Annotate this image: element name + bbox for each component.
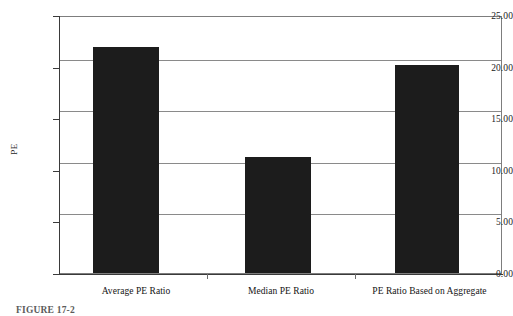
x-axis-tick [207,274,208,279]
x-axis-label-median-pe-ratio: Median PE Ratio [208,286,354,297]
plot-area [59,16,502,274]
x-axis-tick [355,274,356,279]
bar-median-pe-ratio [245,157,311,273]
y-axis-tick [53,119,60,120]
figure-caption: FIGURE 17-2 [16,305,75,316]
y-axis-tick-label: 10.00 [465,166,513,176]
y-axis-tick [53,16,60,17]
x-axis-label-pe-ratio-based-on-aggregate: PE Ratio Based on Aggregate [356,286,503,297]
y-axis-tick [53,68,60,69]
y-axis-title: PE [3,133,25,165]
bar-average-pe-ratio [93,47,159,273]
y-axis-line [59,16,60,275]
y-axis-tick-label: 5.00 [465,217,513,227]
bar-pe-ratio-based-on-aggregate [395,65,459,273]
y-axis-tick [53,222,60,223]
y-axis-tick [53,171,60,172]
y-axis-tick-label: 25.00 [465,11,513,21]
figure-container: 25.00 20.00 15.00 10.00 5.00 0.00 PE Ave… [0,0,513,316]
y-axis-tick-label: 20.00 [465,63,513,73]
x-axis-line [59,274,503,275]
y-axis-tick-label: 15.00 [465,114,513,124]
y-axis-title-text: PE [9,133,19,165]
x-axis-label-average-pe-ratio: Average PE Ratio [66,286,206,297]
